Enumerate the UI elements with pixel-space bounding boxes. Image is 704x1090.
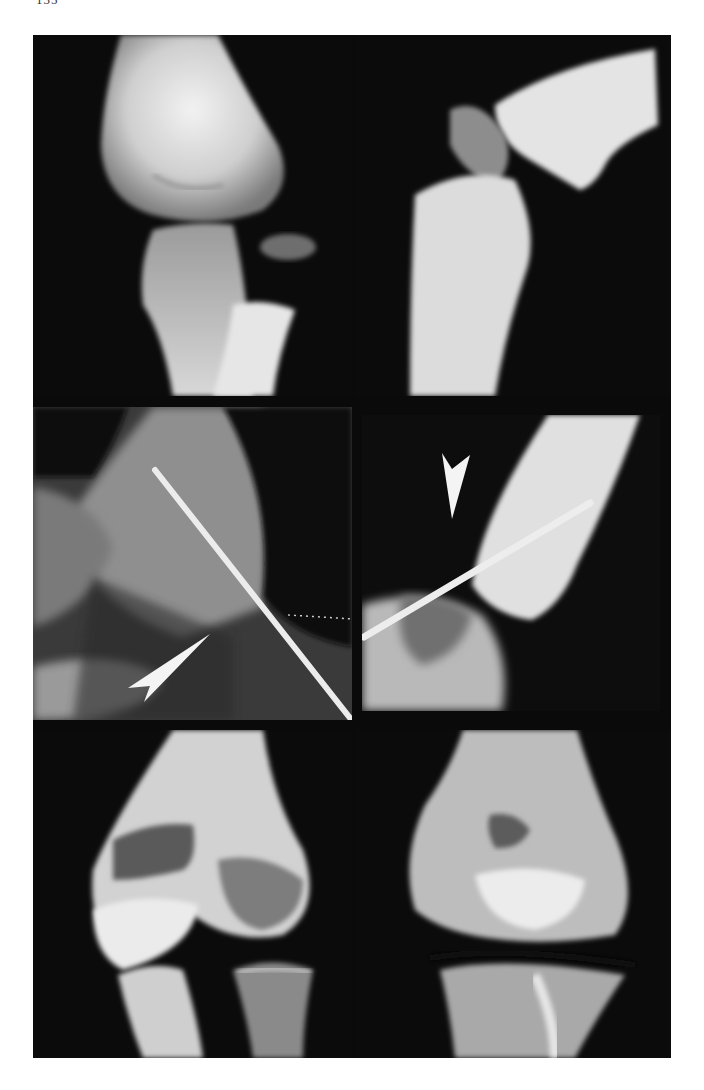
xray-image [33,730,352,1058]
xray-image [362,415,660,711]
xray-image [355,35,671,396]
panel-middle-right-radiograph [362,415,660,711]
panel-bottom-left-radiograph [33,730,352,1058]
panel-bottom-right-radiograph [355,730,671,1058]
xray-image [355,730,671,1058]
arrowhead-annotation-icon [442,453,472,521]
radiograph-figure [33,35,671,1058]
xray-image [33,35,352,396]
page-number: 135 [36,0,59,8]
arrowhead-annotation-icon [128,632,218,702]
panel-middle-left-radiograph [33,407,352,720]
panel-top-left-radiograph [33,35,352,396]
panel-top-right-radiograph [355,35,671,396]
